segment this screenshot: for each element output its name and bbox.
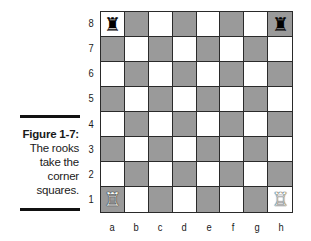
square-a3	[101, 137, 125, 162]
square-e4	[197, 112, 221, 137]
square-b2	[125, 162, 149, 187]
square-g1	[244, 187, 268, 212]
white-rook-icon: ♖	[272, 190, 289, 209]
figure-caption-line: take the	[10, 155, 79, 169]
square-c1	[149, 187, 173, 212]
square-h5	[268, 87, 292, 112]
square-b1	[125, 187, 149, 212]
square-f4	[220, 112, 244, 137]
square-c4	[149, 112, 173, 137]
figure-caption-line: squares.	[10, 183, 79, 197]
square-d2	[173, 162, 197, 187]
square-g5	[244, 87, 268, 112]
file-label: g	[247, 221, 267, 233]
square-f3	[220, 137, 244, 162]
square-a8: ♜	[101, 12, 125, 37]
square-e6	[197, 62, 221, 87]
square-b4	[125, 112, 149, 137]
square-c2	[149, 162, 173, 187]
square-a5	[101, 87, 125, 112]
file-label: f	[222, 221, 242, 233]
caption-top-rule	[20, 115, 80, 118]
file-label: d	[174, 221, 194, 233]
square-e7	[197, 37, 221, 62]
file-label: h	[271, 221, 291, 233]
square-b7	[125, 37, 149, 62]
square-h7	[268, 37, 292, 62]
square-f8	[220, 12, 244, 37]
rank-label: 1	[87, 193, 96, 205]
square-d6	[173, 62, 197, 87]
square-b3	[125, 137, 149, 162]
square-c7	[149, 37, 173, 62]
square-e1	[197, 187, 221, 212]
file-label: e	[198, 221, 218, 233]
square-a6	[101, 62, 125, 87]
square-d4	[173, 112, 197, 137]
square-f7	[220, 37, 244, 62]
square-b5	[125, 87, 149, 112]
square-b6	[125, 62, 149, 87]
white-rook-icon: ♖	[104, 190, 121, 209]
rank-label: 6	[87, 67, 96, 79]
black-rook-icon: ♜	[272, 15, 289, 34]
file-label: a	[102, 221, 122, 233]
square-c6	[149, 62, 173, 87]
chessboard: ♜♜♖♖	[100, 11, 293, 213]
square-e3	[197, 137, 221, 162]
square-f5	[220, 87, 244, 112]
square-g4	[244, 112, 268, 137]
square-h8: ♜	[268, 12, 292, 37]
square-e5	[197, 87, 221, 112]
square-a7	[101, 37, 125, 62]
square-d5	[173, 87, 197, 112]
figure-caption: Figure 1-7: The rooks take the corner sq…	[10, 127, 79, 197]
square-e2	[197, 162, 221, 187]
square-g6	[244, 62, 268, 87]
square-a1: ♖	[101, 187, 125, 212]
square-h4	[268, 112, 292, 137]
square-d8	[173, 12, 197, 37]
square-f2	[220, 162, 244, 187]
rank-label: 4	[87, 118, 96, 130]
figure-caption-title: Figure 1-7:	[10, 127, 79, 141]
square-c3	[149, 137, 173, 162]
square-d7	[173, 37, 197, 62]
rank-label: 3	[87, 143, 96, 155]
file-label: b	[126, 221, 146, 233]
rank-label: 5	[87, 92, 96, 104]
square-b8	[125, 12, 149, 37]
square-c5	[149, 87, 173, 112]
square-g2	[244, 162, 268, 187]
rank-label: 8	[87, 17, 96, 29]
square-h6	[268, 62, 292, 87]
caption-bottom-rule	[20, 208, 80, 211]
square-f6	[220, 62, 244, 87]
square-c8	[149, 12, 173, 37]
square-g7	[244, 37, 268, 62]
square-f1	[220, 187, 244, 212]
figure-caption-line: corner	[10, 169, 79, 183]
file-label: c	[150, 221, 170, 233]
figure-caption-line: The rooks	[10, 141, 79, 155]
square-d3	[173, 137, 197, 162]
rank-label: 2	[87, 168, 96, 180]
square-e8	[197, 12, 221, 37]
black-rook-icon: ♜	[104, 15, 121, 34]
square-h2	[268, 162, 292, 187]
square-a2	[101, 162, 125, 187]
square-a4	[101, 112, 125, 137]
square-g3	[244, 137, 268, 162]
rank-label: 7	[87, 42, 96, 54]
square-g8	[244, 12, 268, 37]
square-h1: ♖	[268, 187, 292, 212]
square-h3	[268, 137, 292, 162]
square-d1	[173, 187, 197, 212]
